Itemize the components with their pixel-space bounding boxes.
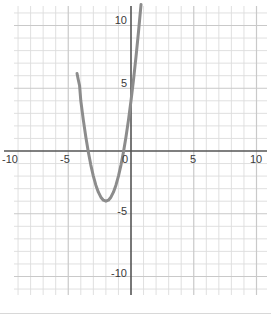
coordinate-plane-svg bbox=[0, 0, 271, 300]
graph-figure: -10 -5 0 5 10 10 5 -5 -10 bbox=[0, 0, 271, 314]
plot-area bbox=[0, 0, 271, 300]
x-tick-label-5: 5 bbox=[190, 153, 196, 165]
x-tick-label-10: 10 bbox=[250, 153, 262, 165]
x-tick-label-neg10: -10 bbox=[2, 153, 18, 165]
y-tick-label-neg10: -10 bbox=[104, 267, 127, 279]
x-tick-label-neg5: -5 bbox=[60, 153, 70, 165]
x-tick-label-zero: 0 bbox=[122, 153, 128, 165]
y-tick-label-10: 10 bbox=[110, 14, 127, 26]
y-tick-label-5: 5 bbox=[110, 77, 127, 89]
y-tick-label-neg5: -5 bbox=[106, 205, 127, 217]
